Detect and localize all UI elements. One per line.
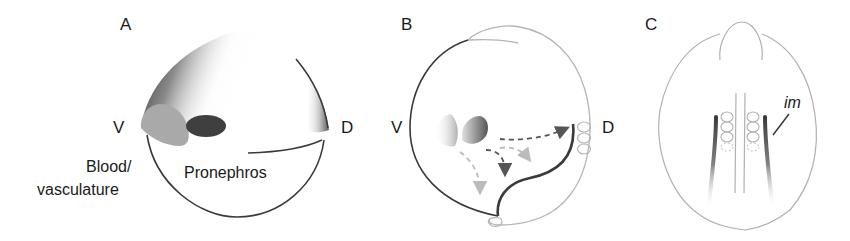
panel-b-somite-2 (578, 133, 591, 143)
panel-c-somite-l3 (721, 132, 733, 142)
panel-a-dorsal-label: D (341, 118, 353, 137)
panel-c-somite-l1 (721, 112, 733, 122)
panel-b-pronephros-blob (462, 116, 488, 144)
panel-c-im-stripe-right (765, 117, 772, 210)
panel-c-somite-r4 (747, 143, 759, 151)
panel-c-im-leader-line (773, 114, 789, 135)
panel-b-ventral-label: V (391, 118, 403, 137)
panel-b-s-curve (498, 124, 574, 216)
panel-c-body-outline (659, 34, 817, 230)
panel-c-somite-r3 (747, 132, 759, 142)
panel-c-neural-line-left (735, 93, 736, 193)
panel-b-somite-1 (578, 122, 591, 132)
panel-b-top-inner-line (468, 40, 518, 43)
panel-b: B V D (391, 15, 614, 226)
panel-b-dorsal-label: D (602, 118, 614, 137)
panel-b-arrow-light-right (500, 147, 528, 158)
panel-a-blood-label-line1: Blood/ (86, 158, 132, 175)
panel-b-arrow-light-down (460, 152, 480, 190)
panel-a-letter: A (120, 15, 132, 34)
panel-a-blood-label-line2: vasculature (37, 181, 119, 198)
panel-a-right-shading (305, 78, 329, 132)
panel-c-somite-l4 (721, 143, 733, 151)
panel-a-pronephros-blob (186, 115, 226, 137)
panel-c-letter: C (645, 15, 657, 34)
panel-c-somite-r2 (747, 122, 759, 132)
panel-b-letter: B (401, 15, 412, 34)
panel-c-im-label: im (784, 94, 801, 111)
panel-b-blood-blob (434, 114, 458, 146)
figure-canvas: A V D Blood/ vasculature Pronephros B V … (0, 0, 850, 241)
panel-a-ventral-label: V (113, 118, 125, 137)
panel-a-pronephros-label: Pronephros (184, 164, 267, 181)
panel-c: C im (645, 15, 816, 230)
panel-c-somite-l2 (721, 122, 733, 132)
panel-c-head-bump (720, 22, 763, 60)
panel-c-neural-line-right (744, 93, 745, 193)
panel-c-somite-r1 (747, 112, 759, 122)
panel-a-inner-line (248, 140, 322, 153)
panel-a: A V D Blood/ vasculature Pronephros (37, 15, 353, 217)
panel-c-im-stripe-left (709, 117, 716, 210)
panel-b-arrow-dorsal (500, 129, 565, 140)
panel-b-arrow-down-dark (486, 150, 505, 172)
